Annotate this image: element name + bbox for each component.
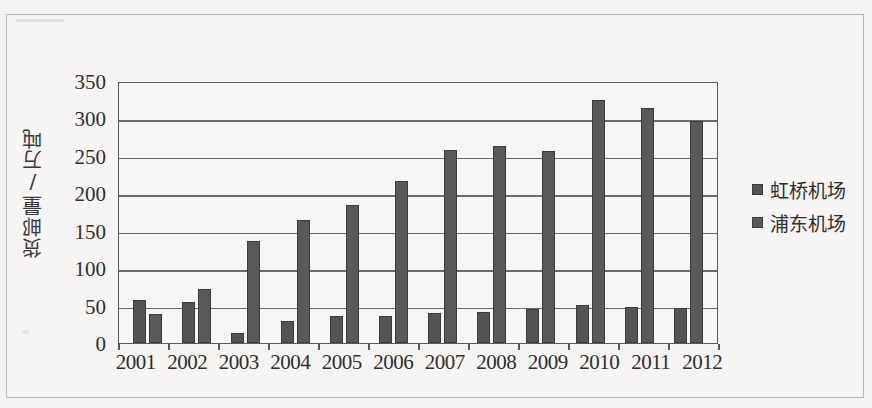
bar-group-2002 xyxy=(172,83,221,343)
y-axis-tick-200: 200 xyxy=(75,182,107,207)
bar-2008-series1[interactable] xyxy=(477,312,490,343)
bar-2011-series1[interactable] xyxy=(625,307,638,343)
x-axis-label-2006: 2006 xyxy=(368,350,420,375)
legend-swatch-icon-2 xyxy=(752,217,763,228)
bar-2010-series1[interactable] xyxy=(576,305,589,343)
legend-item-1[interactable]: 虹桥机场 xyxy=(752,176,846,203)
legend-label-2: 浦东机场 xyxy=(770,209,846,236)
bar-2005-series1[interactable] xyxy=(330,316,343,343)
x-axis-tick-labels: 2001200220032004200520062007200820092010… xyxy=(110,350,728,375)
x-axis-label-2010: 2010 xyxy=(574,350,626,375)
bar-group-2011 xyxy=(615,83,664,343)
x-axis-label-2009: 2009 xyxy=(522,350,574,375)
bar-group-2004 xyxy=(271,83,320,343)
x-axis-label-2004: 2004 xyxy=(265,350,317,375)
bar-2001-series2[interactable] xyxy=(149,314,162,343)
y-axis-tick-labels: 350300250200150100500 xyxy=(60,82,112,344)
bar-2007-series2[interactable] xyxy=(444,150,457,343)
bar-group-2009 xyxy=(516,83,565,343)
y-axis-tick-0: 0 xyxy=(96,332,107,357)
bar-group-2006 xyxy=(369,83,418,343)
bar-2009-series1[interactable] xyxy=(526,309,539,343)
bar-2010-series2[interactable] xyxy=(592,100,605,343)
plot-area xyxy=(118,82,718,344)
y-axis-tick-150: 150 xyxy=(75,219,107,244)
bar-2002-series1[interactable] xyxy=(182,302,195,343)
y-axis-label: 货邮量/万吨 xyxy=(18,128,48,258)
bar-groups xyxy=(119,83,717,343)
bar-group-2008 xyxy=(467,83,516,343)
bar-2003-series1[interactable] xyxy=(231,333,244,343)
x-axis-label-2002: 2002 xyxy=(162,350,214,375)
legend-swatch-icon-1 xyxy=(752,184,763,195)
x-axis-label-2012: 2012 xyxy=(677,350,729,375)
bar-2001-series1[interactable] xyxy=(133,300,146,343)
x-axis-label-2003: 2003 xyxy=(213,350,265,375)
bar-2006-series2[interactable] xyxy=(395,181,408,343)
bar-2003-series2[interactable] xyxy=(247,241,260,343)
x-axis-label-2005: 2005 xyxy=(316,350,368,375)
bar-2006-series1[interactable] xyxy=(379,316,392,343)
legend-label-1: 虹桥机场 xyxy=(770,176,846,203)
bar-group-2003 xyxy=(221,83,270,343)
bar-2008-series2[interactable] xyxy=(493,146,506,343)
bar-chart: 货邮量/万吨 350300250200150100500 20012002200… xyxy=(0,0,872,408)
legend-item-2[interactable]: 浦东机场 xyxy=(752,209,846,236)
bar-group-2005 xyxy=(320,83,369,343)
x-axis-label-2007: 2007 xyxy=(419,350,471,375)
bar-2002-series2[interactable] xyxy=(198,289,211,343)
bar-2004-series1[interactable] xyxy=(281,321,294,343)
scanned-figure: 货邮量/万吨 350300250200150100500 20012002200… xyxy=(0,0,872,408)
y-axis-tick-100: 100 xyxy=(75,257,107,282)
bar-2012-series1[interactable] xyxy=(674,308,687,343)
y-axis-tick-300: 300 xyxy=(75,107,107,132)
x-axis-label-2011: 2011 xyxy=(625,350,677,375)
bar-2011-series2[interactable] xyxy=(641,108,654,343)
y-axis-tick-250: 250 xyxy=(75,144,107,169)
bar-group-2012 xyxy=(664,83,713,343)
legend: 虹桥机场浦东机场 xyxy=(752,176,846,236)
bar-2004-series2[interactable] xyxy=(297,220,310,343)
y-axis-tick-50: 50 xyxy=(85,294,106,319)
x-axis-label-2001: 2001 xyxy=(110,350,162,375)
bar-group-2007 xyxy=(418,83,467,343)
bar-group-2010 xyxy=(566,83,615,343)
bar-2007-series1[interactable] xyxy=(428,313,441,343)
bar-2009-series2[interactable] xyxy=(542,151,555,343)
y-axis-tick-350: 350 xyxy=(75,70,107,95)
bar-2012-series2[interactable] xyxy=(690,121,703,343)
bar-group-2001 xyxy=(123,83,172,343)
bar-2005-series2[interactable] xyxy=(346,205,359,343)
x-axis-label-2008: 2008 xyxy=(471,350,523,375)
